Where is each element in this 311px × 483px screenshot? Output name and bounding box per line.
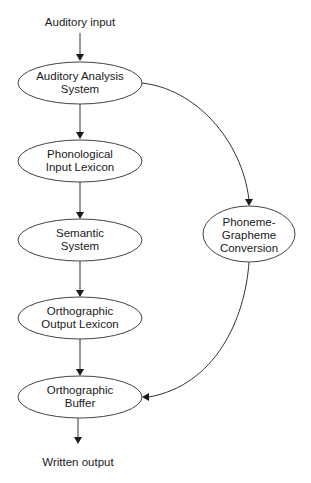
- svg-text:Orthographic: Orthographic: [47, 384, 114, 396]
- node-auditory-analysis-system: Auditory Analysis System: [18, 62, 142, 104]
- edge-sem-to-ool: [76, 261, 84, 297]
- edge-ob-to-output: [74, 418, 82, 444]
- svg-text:Grapheme: Grapheme: [222, 229, 276, 241]
- arrowhead-icon: [76, 54, 84, 61]
- svg-text:Phonological: Phonological: [47, 148, 113, 160]
- svg-text:Semantic: Semantic: [56, 227, 104, 239]
- svg-text:Conversion: Conversion: [220, 242, 278, 254]
- arrowhead-icon: [76, 212, 84, 219]
- edge-aas-to-pgc: [141, 83, 253, 206]
- edge-pil-to-sem: [76, 182, 84, 219]
- svg-text:Auditory Analysis: Auditory Analysis: [36, 70, 124, 82]
- arrowhead-icon: [74, 437, 82, 444]
- node-orthographic-output-lexicon: Orthographic Output Lexicon: [18, 297, 142, 339]
- arrowhead-icon: [76, 290, 84, 297]
- edge-ool-to-ob: [76, 339, 84, 376]
- svg-text:Phoneme-: Phoneme-: [222, 216, 275, 228]
- arrowhead-icon: [76, 369, 84, 376]
- svg-text:System: System: [61, 240, 99, 252]
- node-phoneme-grapheme-conversion: Phoneme- Grapheme Conversion: [203, 206, 295, 262]
- arrowhead-icon: [245, 199, 253, 206]
- svg-text:Orthographic: Orthographic: [47, 305, 114, 317]
- arrowhead-icon: [142, 393, 149, 401]
- arrowhead-icon: [76, 132, 84, 139]
- output-label: Written output: [42, 456, 114, 468]
- node-orthographic-buffer: Orthographic Buffer: [18, 376, 142, 418]
- edge-pgc-to-ob: [142, 262, 249, 401]
- node-semantic-system: Semantic System: [18, 219, 142, 261]
- edge-input-to-aas: [76, 33, 84, 61]
- svg-text:System: System: [61, 83, 99, 95]
- spelling-model-diagram: Auditory input Auditory Analysis System: [0, 0, 311, 483]
- node-phonological-input-lexicon: Phonological Input Lexicon: [18, 140, 142, 182]
- input-label: Auditory input: [45, 16, 116, 28]
- edge-aas-to-pil: [76, 104, 84, 139]
- svg-text:Buffer: Buffer: [65, 397, 96, 409]
- svg-text:Output Lexicon: Output Lexicon: [41, 318, 118, 330]
- svg-text:Input Lexicon: Input Lexicon: [46, 161, 114, 173]
